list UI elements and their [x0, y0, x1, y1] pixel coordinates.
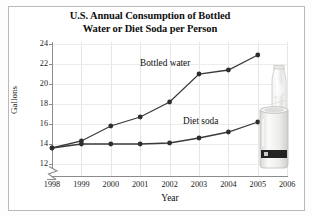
y-tick-text: 18	[28, 99, 48, 108]
y-tick-label: 14	[28, 139, 48, 149]
gridline-vertical	[199, 42, 200, 176]
y-tick-text: 16	[28, 119, 48, 128]
y-axis-line	[52, 42, 53, 168]
gridline-horizontal	[52, 104, 288, 105]
beverage-photo-inset	[258, 64, 304, 174]
y-tick-label: 18	[28, 99, 48, 109]
chart-title-line-2: Water or Diet Soda per Person	[30, 23, 270, 36]
gridline-vertical	[81, 42, 82, 176]
y-tick-text: 20	[28, 79, 48, 88]
series-label-bottled-water: Bottled water	[140, 58, 190, 68]
y-tick-text: 22	[28, 59, 48, 68]
axis-break-icon	[45, 166, 61, 180]
chart-figure: U.S. Annual Consumption of Bottled Water…	[0, 0, 313, 217]
gridline-horizontal	[52, 144, 288, 145]
y-tick-text: 24	[28, 39, 48, 48]
x-axis-label: Year	[52, 193, 288, 203]
chart-title-line-1: U.S. Annual Consumption of Bottled	[30, 10, 270, 23]
y-axis-label: Gallons	[9, 70, 19, 130]
gridline-horizontal	[52, 164, 288, 165]
series-label-diet-soda: Diet soda	[183, 116, 218, 126]
gridline-horizontal	[52, 44, 288, 45]
gridline-vertical	[111, 42, 112, 176]
gridline-horizontal	[52, 84, 288, 85]
y-tick-label: 20	[28, 79, 48, 89]
y-tick-text: 14	[28, 139, 48, 148]
soda-can-icon	[260, 107, 288, 168]
gridline-vertical	[228, 42, 229, 176]
x-axis-line	[52, 176, 288, 177]
gridline-horizontal	[52, 124, 288, 125]
y-tick-label: 24	[28, 39, 48, 49]
x-tick-label: 2006	[270, 180, 304, 189]
y-tick-label: 22	[28, 59, 48, 69]
chart-title: U.S. Annual Consumption of Bottled Water…	[30, 10, 270, 35]
y-tick-label: 16	[28, 119, 48, 129]
